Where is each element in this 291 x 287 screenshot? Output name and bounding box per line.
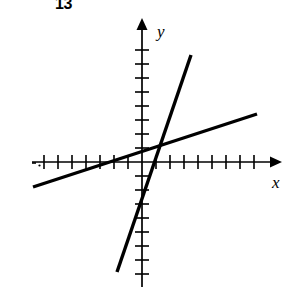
y-axis-arrow-icon (137, 18, 148, 30)
figure-container: 13 (0, 0, 291, 287)
y-axis-label: y (155, 22, 165, 41)
x-axis-left-dot-icon (38, 164, 40, 166)
coordinate-graph: y x (0, 0, 291, 287)
x-axis-arrow-icon (270, 157, 282, 168)
x-axis-label: x (271, 173, 280, 192)
